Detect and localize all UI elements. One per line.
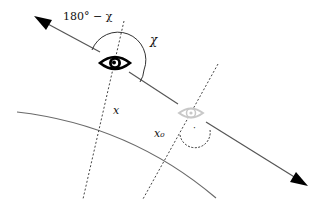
eye-icon bbox=[100, 57, 130, 69]
line-of-sight-upper bbox=[46, 23, 100, 52]
surface-curve bbox=[17, 112, 216, 198]
arrowhead-left-icon bbox=[34, 16, 52, 30]
eye-icon-faded bbox=[179, 109, 203, 118]
diagram-canvas: · 180° − χ χ x x₀ bbox=[0, 0, 325, 207]
label-x: x bbox=[113, 104, 120, 117]
line-of-sight-lower bbox=[206, 122, 296, 178]
label-chi: χ bbox=[149, 33, 158, 47]
label-supplement-angle: 180° − χ bbox=[63, 10, 113, 23]
line-of-sight-middle bbox=[129, 72, 178, 104]
arrowhead-right-icon bbox=[290, 172, 308, 186]
right-angle-dot: · bbox=[193, 123, 196, 133]
label-x0: x₀ bbox=[154, 127, 165, 140]
